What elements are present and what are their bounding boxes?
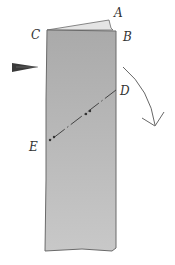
- label-d: D: [119, 84, 130, 98]
- pointer-arrow-icon: [12, 63, 38, 72]
- label-a: A: [113, 6, 123, 20]
- label-e: E: [28, 140, 38, 154]
- fold-dot: [53, 136, 55, 138]
- fold-dot: [49, 139, 51, 141]
- fold-dot: [85, 113, 87, 115]
- top-flap: [47, 20, 113, 30]
- label-c: C: [31, 28, 40, 42]
- origami-diagram: A B C D E: [0, 0, 175, 265]
- fold-dot: [89, 110, 91, 112]
- label-b: B: [122, 30, 132, 44]
- paper-strip: [45, 30, 116, 251]
